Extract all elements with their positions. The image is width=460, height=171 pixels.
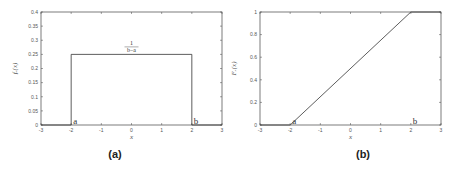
x-tick-label: 3 [440, 127, 443, 133]
y-tick-label: 0.2 [250, 99, 257, 105]
y-tick-label: 0.4 [31, 9, 38, 15]
y-axis-label: fₓ(x) [11, 62, 19, 74]
x-tick-label: 2 [409, 127, 412, 133]
annotation-a: a [73, 116, 77, 126]
y-tick-label: 0 [35, 122, 38, 128]
y-tick-label: 0.05 [28, 108, 38, 114]
y-tick-label: 0.1 [31, 94, 38, 100]
x-tick-label: -3 [258, 127, 263, 133]
y-tick-label: 0.2 [31, 65, 38, 71]
chart-panel-b: -3-2-1012300.20.40.60.81xFₓ(x)ab (b) [230, 0, 460, 171]
axes-frame [41, 12, 222, 125]
x-tick-label: -2 [288, 127, 293, 133]
x-tick-label: -1 [99, 127, 104, 133]
annotation-b: b [194, 116, 199, 126]
fraction-numerator: 1 [130, 40, 133, 46]
chart-panel-a: -3-2-1012300.050.10.150.20.250.30.350.4x… [0, 0, 230, 171]
x-tick-label: -2 [69, 127, 74, 133]
data-series [260, 12, 441, 125]
y-tick-label: 0.35 [28, 23, 38, 29]
caption-b: (b) [343, 148, 383, 160]
x-tick-label: -3 [39, 127, 44, 133]
y-tick-label: 0.6 [250, 54, 257, 60]
y-tick-label: 0 [254, 122, 257, 128]
cdf-plot: -3-2-1012300.20.40.60.81xFₓ(x)ab [230, 0, 460, 171]
y-tick-label: 0.3 [31, 37, 38, 43]
data-series [41, 54, 222, 125]
x-tick-label: -1 [318, 127, 323, 133]
pdf-plot: -3-2-1012300.050.10.150.20.250.30.350.4x… [0, 0, 230, 171]
x-tick-label: 1 [160, 127, 163, 133]
x-tick-label: 2 [190, 127, 193, 133]
y-tick-label: 1 [254, 9, 257, 15]
caption-a: (a) [95, 148, 135, 160]
y-tick-label: 0.8 [250, 31, 257, 37]
y-axis-label: Fₓ(x) [230, 61, 238, 77]
annotation-a: a [292, 116, 296, 126]
y-tick-label: 0.25 [28, 51, 38, 57]
x-tick-label: 3 [221, 127, 224, 133]
x-axis-label: x [129, 133, 134, 141]
fraction-denominator: b−a [127, 47, 136, 53]
x-axis-label: x [348, 133, 353, 141]
x-tick-label: 1 [379, 127, 382, 133]
y-tick-label: 0.4 [250, 77, 257, 83]
y-tick-label: 0.15 [28, 79, 38, 85]
annotation-b: b [413, 116, 418, 126]
